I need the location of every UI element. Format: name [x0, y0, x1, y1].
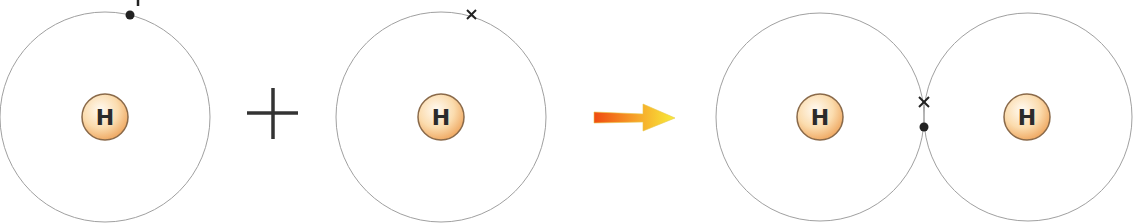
hydrogen-atom-1: H: [0, 0, 210, 222]
nucleus-label: H: [1018, 105, 1036, 130]
plus-operator-icon: [247, 88, 298, 139]
reaction-arrow-icon: [594, 104, 675, 131]
electron-cross-icon: [467, 10, 476, 19]
shared-electron-dot-icon: [920, 123, 929, 132]
nucleus-label: H: [811, 105, 829, 130]
hydrogen-atom-2: H: [336, 10, 546, 222]
nucleus-label: H: [432, 105, 450, 130]
shared-electron-cross-icon: [919, 97, 929, 107]
nucleus-label: H: [96, 105, 114, 130]
electron-dot-icon: [126, 11, 135, 20]
diagram-canvas: H H H H: [0, 0, 1140, 223]
hydrogen-molecule: H H: [716, 13, 1132, 221]
